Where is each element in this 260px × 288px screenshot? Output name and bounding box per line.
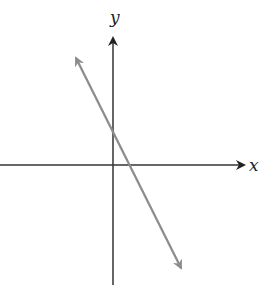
y-axis-label: y [109,7,120,27]
graphed-line-upper [76,58,129,163]
x-axis-label: x [249,155,259,175]
graphed-line [129,163,182,268]
coordinate-plane: y x [0,0,260,288]
